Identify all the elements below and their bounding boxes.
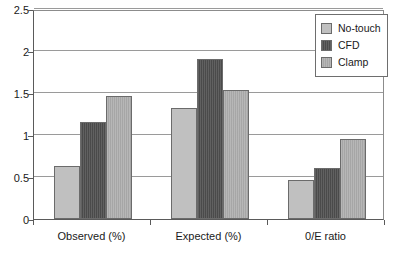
legend-item-label: CFD bbox=[338, 40, 360, 51]
bar[interactable] bbox=[197, 59, 223, 219]
x-axis-tick-label: 0/E ratio bbox=[267, 230, 384, 242]
y-axis-tick-label: 1.5 bbox=[14, 89, 29, 100]
bar-chart: 00.511.522.5 Observed (%)Expected (%)0/E… bbox=[0, 0, 403, 257]
x-axis-tick-mark bbox=[384, 220, 385, 225]
legend-item[interactable]: Clamp bbox=[321, 54, 383, 71]
x-axis-tick-label: Observed (%) bbox=[33, 230, 150, 242]
bar[interactable] bbox=[171, 108, 197, 219]
bar-group bbox=[34, 11, 151, 219]
legend-item-label: Clamp bbox=[338, 57, 368, 68]
bar[interactable] bbox=[54, 166, 80, 219]
legend-swatch-icon bbox=[321, 40, 332, 51]
legend-swatch-icon bbox=[321, 23, 332, 34]
legend-item[interactable]: CFD bbox=[321, 37, 383, 54]
x-axis-tick-label: Expected (%) bbox=[150, 230, 267, 242]
y-axis-tick-label: 2.5 bbox=[14, 5, 29, 16]
legend-swatch-icon bbox=[321, 57, 332, 68]
bar[interactable] bbox=[288, 180, 314, 219]
x-axis-tick-mark bbox=[267, 220, 268, 225]
bar-group bbox=[151, 11, 268, 219]
bar[interactable] bbox=[340, 139, 366, 219]
x-axis-tick-mark bbox=[150, 220, 151, 225]
y-axis-tick-label: 0.5 bbox=[14, 173, 29, 184]
legend-item-label: No-touch bbox=[338, 23, 381, 34]
bar[interactable] bbox=[223, 90, 249, 219]
bar[interactable] bbox=[106, 96, 132, 219]
legend-item[interactable]: No-touch bbox=[321, 20, 383, 37]
gridline bbox=[34, 8, 383, 9]
bar[interactable] bbox=[314, 168, 340, 219]
bar[interactable] bbox=[80, 122, 106, 219]
chart-legend: No-touch CFD Clamp bbox=[315, 14, 388, 77]
x-axis-tick-mark bbox=[33, 220, 34, 225]
